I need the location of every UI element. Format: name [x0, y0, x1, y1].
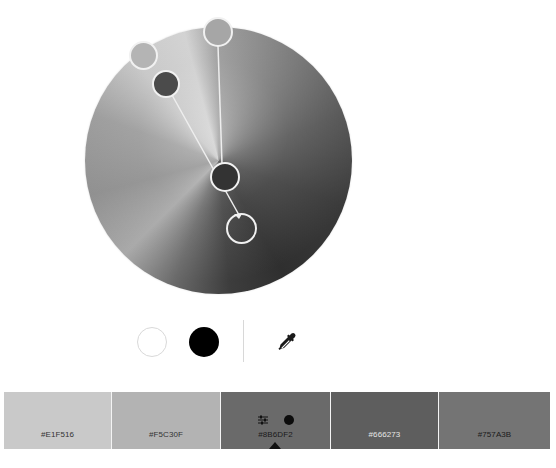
color-wheel-area: [0, 0, 556, 310]
swatch-hex-label: #E1F516: [4, 430, 111, 439]
eyedropper-button[interactable]: [274, 330, 300, 356]
toolbar-divider: [243, 320, 244, 362]
swatch-1[interactable]: #E1F516: [4, 392, 112, 449]
black-color-button[interactable]: [189, 327, 219, 357]
color-handle-1[interactable]: [129, 41, 158, 70]
adjust-sliders-icon[interactable]: [257, 414, 269, 426]
swatch-hex-label: #8B6DF2: [221, 430, 330, 439]
swatch-hex-label: #F5C30F: [112, 430, 220, 439]
base-color-dot-icon[interactable]: [284, 415, 294, 425]
color-swatches-bar: #E1F516 #F5C30F #8B6DF2 #666273 #757A3B: [4, 392, 550, 449]
swatch-hex-label: #757A3B: [439, 430, 550, 439]
white-color-button[interactable]: [137, 327, 167, 357]
color-wheel[interactable]: [85, 27, 352, 294]
color-handle-2[interactable]: [203, 17, 233, 47]
swatch-tools: [221, 414, 330, 426]
selected-caret-icon: [269, 442, 281, 449]
color-handle-base[interactable]: [210, 162, 240, 192]
color-handle-5[interactable]: [226, 213, 257, 244]
color-handle-3[interactable]: [152, 70, 180, 98]
eyedropper-icon: [274, 330, 300, 356]
swatch-hex-label: #666273: [331, 430, 438, 439]
swatch-5[interactable]: #757A3B: [439, 392, 550, 449]
swatch-2[interactable]: #F5C30F: [112, 392, 221, 449]
swatch-4[interactable]: #666273: [331, 392, 439, 449]
swatch-3-selected[interactable]: #8B6DF2: [221, 392, 331, 449]
